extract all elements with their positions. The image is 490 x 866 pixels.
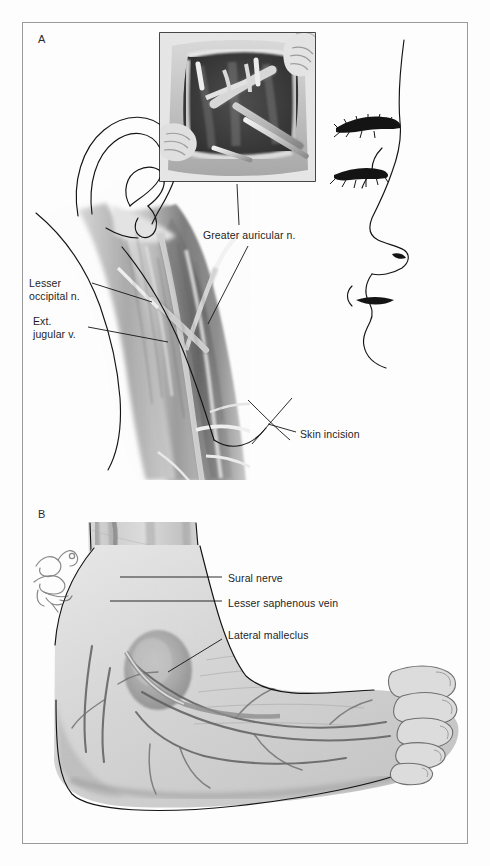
figure-border-frame: [22, 22, 468, 844]
label-skin-incision: Skin incision: [300, 428, 360, 441]
label-greater-auricular-n: Greater auricular n.: [203, 229, 295, 242]
panel-a-letter: A: [38, 33, 46, 45]
figure-container: A Greater auricular n. Lesser occipital …: [0, 0, 490, 866]
label-lesser-saphenous-vein: Lesser saphenous vein: [228, 597, 338, 610]
label-ext-jugular-v: Ext. jugular v.: [33, 315, 76, 341]
label-sural-nerve: Sural nerve: [228, 572, 283, 585]
label-lesser-occipital-n: Lesser occipital n.: [29, 277, 80, 303]
label-lateral-malleclus: Lateral malleclus: [228, 629, 309, 642]
panel-b-letter: B: [38, 508, 46, 520]
